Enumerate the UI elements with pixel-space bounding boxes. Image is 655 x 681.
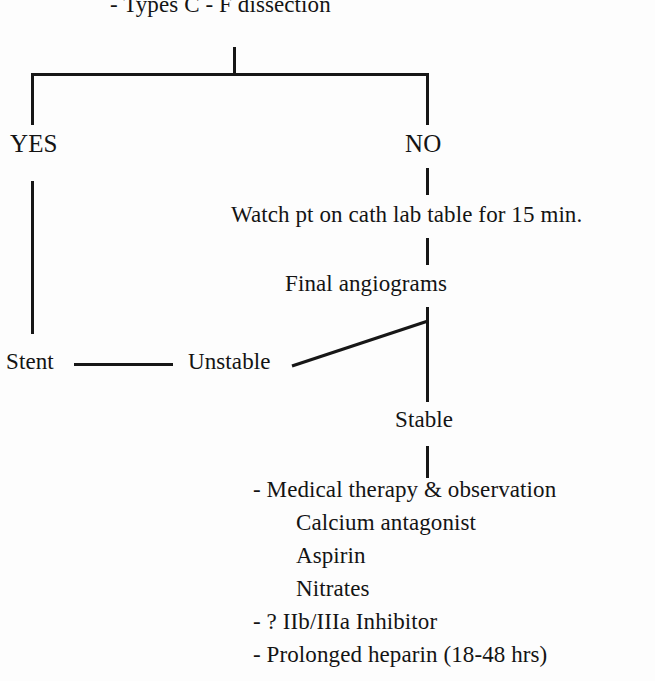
connector-no-branch-drop [426,73,429,125]
therapy-item-prolonged-heparin: - Prolonged heparin (18-48 hrs) [253,643,547,666]
therapy-item-nitrates: Nitrates [296,577,370,600]
branch-label-no: NO [405,131,441,156]
connector-split-bar [31,73,429,76]
connector-top-stem [233,47,236,76]
connector-yes-branch-drop [31,73,34,125]
node-final-angiograms: Final angiograms [285,272,447,295]
connector-no-to-watch [426,168,429,195]
connector-stent-to-unstable [74,363,173,366]
branch-label-yes: YES [10,131,58,156]
connector-yes-to-stent [31,181,34,334]
node-top-criterion: - Types C - F dissection [110,0,331,16]
therapy-item-iibiiia-inhibitor: - ? IIb/IIIa Inhibitor [253,610,437,633]
connector-unstable-diagonal [292,318,433,368]
node-stent: Stent [6,350,54,373]
connector-split-to-stable [426,320,429,402]
flowchart-canvas: - Types C - F dissection YES NO Watch pt… [0,0,655,681]
connector-stable-to-therapy [426,446,429,478]
therapy-item-aspirin: Aspirin [296,544,366,567]
node-unstable: Unstable [188,350,271,373]
node-stable: Stable [395,408,453,431]
connector-watch-to-angiograms [426,238,429,265]
therapy-item-medical-therapy: - Medical therapy & observation [253,478,556,501]
therapy-item-calcium-antagonist: Calcium antagonist [296,511,476,534]
node-watch-patient: Watch pt on cath lab table for 15 min. [231,203,582,226]
